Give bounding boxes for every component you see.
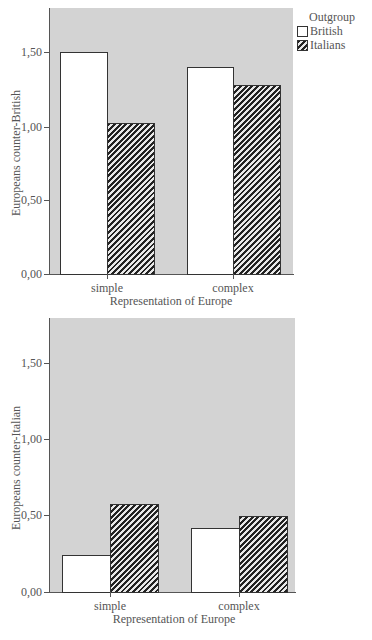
y-axis-label: Europeans counter-Italian bbox=[10, 406, 22, 530]
bar-simple-italians bbox=[107, 123, 155, 275]
legend-label: British bbox=[310, 24, 343, 38]
y-tick bbox=[44, 127, 49, 128]
legend-item-italians: Italians bbox=[297, 38, 355, 52]
y-tick-label: 0,00 bbox=[2, 268, 42, 280]
x-axis-label: Representation of Europe bbox=[49, 613, 299, 625]
x-tick-label: complex bbox=[199, 600, 279, 612]
bar-complex-italians bbox=[233, 85, 281, 275]
y-axis bbox=[49, 318, 50, 593]
legend-label: Italians bbox=[310, 38, 345, 52]
y-tick bbox=[44, 52, 49, 53]
bar-simple-italians bbox=[110, 504, 159, 593]
y-tick bbox=[44, 274, 49, 275]
x-tick bbox=[239, 592, 240, 597]
y-axis bbox=[49, 8, 50, 275]
swatch-hatched-icon bbox=[297, 40, 308, 51]
x-tick-label: simple bbox=[67, 282, 147, 294]
x-tick-label: complex bbox=[193, 282, 273, 294]
x-tick bbox=[110, 592, 111, 597]
y-axis-label: Europeans counter-British bbox=[10, 90, 22, 216]
y-tick-label: 1,50 bbox=[2, 357, 42, 369]
swatch-white-icon bbox=[297, 26, 308, 37]
x-tick-label: simple bbox=[70, 600, 150, 612]
y-tick-label: 1,50 bbox=[2, 46, 42, 58]
bar-complex-british bbox=[187, 67, 234, 275]
y-tick bbox=[44, 439, 49, 440]
y-tick bbox=[44, 200, 49, 201]
legend-item-british: British bbox=[297, 24, 355, 38]
y-tick bbox=[44, 363, 49, 364]
x-tick bbox=[233, 274, 234, 279]
legend-title: Outgroup bbox=[309, 10, 355, 24]
y-tick-label: 0,00 bbox=[2, 586, 42, 598]
legend: Outgroup British Italians bbox=[297, 10, 355, 52]
y-tick bbox=[44, 515, 49, 516]
x-axis-label: Representation of Europe bbox=[46, 295, 296, 307]
y-tick bbox=[44, 592, 49, 593]
bar-simple-british bbox=[62, 555, 111, 593]
bar-complex-italians bbox=[239, 516, 288, 593]
bar-complex-british bbox=[191, 528, 240, 593]
bar-simple-british bbox=[60, 52, 108, 275]
x-tick bbox=[107, 274, 108, 279]
